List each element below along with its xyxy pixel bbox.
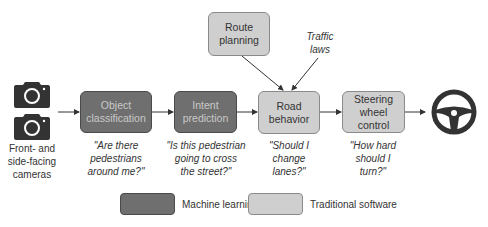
node-label: Intent	[183, 99, 229, 112]
annotation-line: laws	[298, 43, 342, 56]
object-classification-node: Object classification	[80, 91, 152, 133]
question-line: lanes?"	[254, 165, 324, 178]
steering-wheel-control-node: Steering wheel control	[342, 91, 405, 133]
road-behavior-node: Road behavior	[258, 91, 320, 134]
node-label: Object	[86, 99, 146, 112]
question-line: pedestrians	[70, 152, 162, 165]
legend-label-traditional-software: Traditional software	[310, 199, 397, 211]
cameras-label: Front- and side-facing cameras	[0, 142, 64, 181]
node-label: classification	[86, 112, 146, 125]
node-label: planning	[219, 34, 259, 47]
cameras-label-line: cameras	[0, 168, 64, 181]
node-label: Steering	[343, 93, 404, 106]
question-line: "Are there	[70, 139, 162, 152]
camera-icon	[14, 112, 50, 140]
node-label: wheel control	[343, 106, 404, 132]
question-line: the street?"	[160, 165, 252, 178]
annotation-line: Traffic	[298, 30, 342, 43]
traffic-laws-annotation: Traffic laws	[298, 30, 342, 56]
legend-label-machine-learning: Machine learning	[182, 199, 258, 211]
arrow-route-to-road	[242, 56, 283, 90]
road-behavior-question: "Should I change lanes?"	[254, 139, 324, 178]
question-line: should I	[338, 152, 408, 165]
question-line: change	[254, 152, 324, 165]
question-line: "Should I	[254, 139, 324, 152]
camera-icon	[14, 80, 50, 108]
question-line: "How hard	[338, 139, 408, 152]
node-label: behavior	[269, 113, 309, 126]
node-label: Route	[219, 21, 259, 34]
route-planning-node: Route planning	[208, 12, 270, 56]
intent-prediction-question: "Is this pedestrian going to cross the s…	[160, 139, 252, 178]
question-line: around me?"	[70, 165, 162, 178]
legend-swatch-machine-learning	[120, 193, 175, 215]
intent-prediction-node: Intent prediction	[174, 91, 237, 133]
question-line: "Is this pedestrian	[160, 139, 252, 152]
object-classification-question: "Are there pedestrians around me?"	[70, 139, 162, 178]
question-line: turn?"	[338, 165, 408, 178]
cameras-label-line: Front- and	[0, 142, 64, 155]
arrow-laws-to-road	[292, 58, 318, 90]
node-label: prediction	[183, 112, 229, 125]
cameras-label-line: side-facing	[0, 155, 64, 168]
steering-wheel-icon	[431, 89, 477, 135]
question-line: going to cross	[160, 152, 252, 165]
node-label: Road	[269, 100, 309, 113]
steering-wheel-control-question: "How hard should I turn?"	[338, 139, 408, 178]
legend-swatch-traditional-software	[248, 193, 303, 215]
